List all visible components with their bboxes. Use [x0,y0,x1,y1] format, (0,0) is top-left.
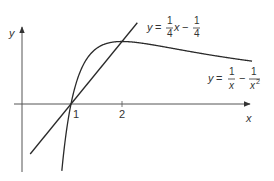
line-label-var: x [173,21,180,33]
line-label-frac1-den: 4 [167,28,173,39]
curve-label-equals: = [216,72,222,84]
curve-label-lhs-y: y [207,72,215,84]
line-label-lhs-y: y [146,21,154,33]
curve-label-frac2-den: x [249,80,256,91]
line-label-minus: − [182,21,188,33]
curve-label-frac2-exp: 2 [256,78,260,85]
curve-equation-label: y = 1 x − 1 x 2 [207,66,260,91]
curve-1-over-x-minus-1-over-x2 [62,42,252,171]
x-tick-label-2: 2 [119,108,125,120]
y-axis-label: y [8,27,16,39]
function-graph: x y 12 y = 1 4 x − 1 4 y = 1 x − 1 x 2 [0,0,274,181]
curve-label-frac2-num: 1 [251,66,257,77]
line-label-frac2-num: 1 [194,15,200,26]
x-axis-label: x [245,112,252,124]
curve-label-frac1-num: 1 [229,66,235,77]
curve-label-minus: − [239,72,245,84]
line-quarter-x-minus-quarter [30,23,137,154]
x-tick-label-1: 1 [73,108,79,120]
line-equation-label: y = 1 4 x − 1 4 [146,15,200,39]
line-label-frac1-num: 1 [167,15,173,26]
line-label-equals: = [155,21,161,33]
curve-label-frac1-den: x [228,80,235,91]
line-label-frac2-den: 4 [194,28,200,39]
